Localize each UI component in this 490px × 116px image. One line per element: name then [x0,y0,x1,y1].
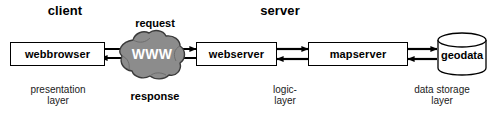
node-webbrowser[interactable]: webbrowser [10,42,105,66]
node-mapserver-label: mapserver [330,48,387,60]
layer-label-data-storage: data storage layer [396,84,488,106]
layer-label-presentation-line1: presentation [12,84,104,95]
architecture-diagram: client server request response [0,0,490,116]
node-webserver-label: webserver [209,48,264,60]
layer-label-logic-line1: logic- [250,84,320,95]
layer-label-presentation: presentation layer [12,84,104,106]
connector-browser-www [101,49,156,58]
layer-label-logic: logic- layer [250,84,320,106]
node-webserver[interactable]: webserver [196,42,277,66]
node-webbrowser-label: webbrowser [25,48,90,60]
layer-label-logic-line2: layer [250,95,320,106]
layer-label-presentation-line2: layer [12,95,104,106]
connector-www-webserver [155,49,196,58]
connector-webserver-mapserver [277,49,308,59]
connector-mapserver-geodata [408,49,437,59]
node-mapserver[interactable]: mapserver [308,42,408,66]
layer-label-data-storage-line1: data storage [396,84,488,95]
node-geodata[interactable]: geodata [437,32,487,76]
node-geodata-label: geodata [437,49,487,61]
layer-label-data-storage-line2: layer [396,95,488,106]
